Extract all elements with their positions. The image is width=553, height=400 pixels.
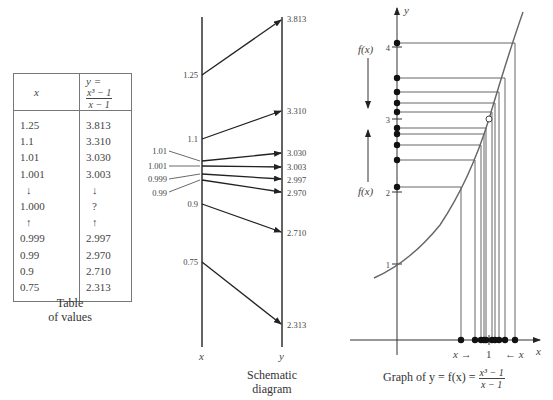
y-label: 2.997 <box>287 175 306 185</box>
table-row: 1.13.310 <box>14 133 132 149</box>
y-label: 2.710 <box>287 228 306 238</box>
y-label: 3.310 <box>287 106 306 116</box>
x-label: 1.01 <box>152 146 167 156</box>
table-caption: Table of values <box>20 296 120 324</box>
graph-y-axis-label: y <box>403 4 409 16</box>
table-row: ↑↑ <box>14 214 132 230</box>
x-label: 1.25 <box>183 70 198 80</box>
x-approach-left: x → <box>452 348 472 360</box>
x-label: 1.001 <box>148 161 167 171</box>
y-tick-label: 3 <box>386 115 390 125</box>
table-row: 1.013.030 <box>14 149 132 165</box>
table-header-y: y = x³ − 1x − 1 <box>80 74 132 111</box>
graph-caption: Graph of y = f(x) = x³ − 1x − 1 <box>383 367 553 390</box>
y-tick-label: 4 <box>386 43 391 53</box>
table-row: 1.0013.003 <box>14 166 132 182</box>
x-label: 0.999 <box>148 174 167 184</box>
x-approach-right: ← x <box>505 348 524 360</box>
x-label: 0.9 <box>187 199 198 209</box>
graph-x-axis-label: x <box>535 345 541 357</box>
hole-point <box>486 116 492 122</box>
x-label: 0.75 <box>183 257 198 267</box>
table-row: 0.9992.997 <box>14 230 132 246</box>
table-row: 1.000? <box>14 198 132 214</box>
table-row: 0.992.970 <box>14 247 132 263</box>
y-axis-label: y <box>278 350 284 362</box>
table-header-x: x <box>14 74 80 111</box>
x-label: 1.1 <box>187 134 198 144</box>
x-axis-label: x <box>198 350 204 362</box>
y-label: 2.970 <box>287 188 306 198</box>
table-row: 1.253.813 <box>14 111 132 134</box>
table-of-values: x y = x³ − 1x − 1 1.253.813 1.13.310 1.0… <box>13 73 132 302</box>
schematic-caption: Schematic diagram <box>230 368 314 396</box>
y-tick-label: 2 <box>386 188 390 198</box>
y-label: 3.003 <box>287 162 306 172</box>
y-label: 3.813 <box>287 14 306 24</box>
x-tick-label: 1 <box>486 348 492 360</box>
y-tick-label: 1 <box>386 260 390 270</box>
fx-label-top: f(x) <box>358 43 374 56</box>
x-label: 0.99 <box>152 188 167 198</box>
table-row: 0.92.710 <box>14 263 132 279</box>
schematic-diagram: 1.25 1.1 1.01 1.001 0.999 0.99 0.9 0.75 … <box>140 0 350 400</box>
function-graph: y x 4 3 2 1 1 f(x) f(x) x → ← x <box>350 0 553 400</box>
y-label: 3.030 <box>287 148 306 158</box>
y-label: 2.313 <box>287 320 306 330</box>
table-row: ↓↓ <box>14 182 132 198</box>
fx-label-bottom: f(x) <box>358 185 374 198</box>
